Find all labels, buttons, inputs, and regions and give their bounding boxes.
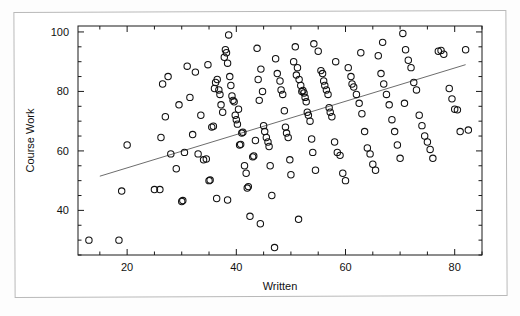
- data-point: [198, 112, 204, 118]
- data-point: [416, 112, 422, 118]
- data-point: [359, 111, 365, 117]
- data-point: [213, 195, 219, 201]
- y-tick-label-60: 60: [57, 145, 69, 157]
- data-point: [308, 136, 314, 142]
- data-point: [310, 149, 316, 155]
- data-point: [217, 91, 223, 97]
- data-point: [315, 48, 321, 54]
- data-point: [173, 166, 179, 172]
- data-point: [195, 151, 201, 157]
- data-point: [397, 155, 403, 161]
- data-point: [421, 133, 427, 139]
- data-point: [405, 57, 411, 63]
- data-point: [281, 108, 287, 114]
- data-point: [211, 85, 217, 91]
- data-point: [295, 216, 301, 222]
- data-point: [348, 73, 354, 79]
- y-tick-label-40: 40: [57, 204, 69, 216]
- data-point: [372, 167, 378, 173]
- data-point: [224, 60, 230, 66]
- data-point: [400, 30, 406, 36]
- data-point: [303, 99, 309, 105]
- data-point: [340, 170, 346, 176]
- data-point: [462, 47, 468, 53]
- data-point: [187, 94, 193, 100]
- data-point: [176, 102, 182, 108]
- data-point: [320, 78, 326, 84]
- data-point: [413, 87, 419, 93]
- data-point: [383, 91, 389, 97]
- data-point: [274, 70, 280, 76]
- data-point: [302, 94, 308, 100]
- data-point: [379, 39, 385, 45]
- data-point: [345, 64, 351, 70]
- data-point: [331, 139, 337, 145]
- x-tick-label-60: 60: [339, 261, 351, 273]
- data-point: [402, 47, 408, 53]
- data-point: [266, 143, 272, 149]
- data-point: [233, 116, 239, 122]
- x-tick-label-80: 80: [449, 261, 461, 273]
- data-point: [159, 81, 165, 87]
- data-point: [301, 90, 307, 96]
- data-point: [326, 105, 332, 111]
- data-point: [419, 122, 425, 128]
- data-point: [218, 102, 224, 108]
- x-axis-title: Written: [263, 280, 298, 292]
- data-point: [401, 100, 407, 106]
- data-point: [391, 128, 397, 134]
- data-point: [408, 64, 414, 70]
- data-point: [378, 70, 384, 76]
- data-point: [205, 61, 211, 67]
- y-tick-label-100: 100: [51, 26, 69, 38]
- data-point: [430, 155, 436, 161]
- data-point: [287, 157, 293, 163]
- data-point: [389, 116, 395, 122]
- data-point: [294, 64, 300, 70]
- data-point: [282, 124, 288, 130]
- data-point: [269, 192, 275, 198]
- data-point: [224, 197, 230, 203]
- data-point: [118, 188, 124, 194]
- data-point: [367, 151, 373, 157]
- data-point: [386, 102, 392, 108]
- data-point: [165, 73, 171, 79]
- data-point: [232, 112, 238, 118]
- data-point: [427, 146, 433, 152]
- data-point: [258, 66, 264, 72]
- data-point: [255, 76, 261, 82]
- data-point: [225, 32, 231, 38]
- data-point: [381, 81, 387, 87]
- data-point: [332, 58, 338, 64]
- data-point: [465, 127, 471, 133]
- data-point: [271, 244, 277, 250]
- data-point: [311, 41, 317, 47]
- y-tick-label-80: 80: [57, 85, 69, 97]
- plot-frame: [78, 26, 482, 255]
- data-point: [307, 118, 313, 124]
- data-point: [216, 87, 222, 93]
- data-point: [394, 142, 400, 148]
- data-point: [277, 78, 283, 84]
- data-point: [370, 161, 376, 167]
- data-point: [364, 145, 370, 151]
- data-point: [116, 237, 122, 243]
- x-tick-label-40: 40: [230, 261, 242, 273]
- data-point: [219, 109, 225, 115]
- x-tick-label-20: 20: [121, 261, 133, 273]
- data-point: [192, 69, 198, 75]
- data-point: [375, 53, 381, 59]
- scatter-plot-figure: 20406080406080100WrittenCourse Work: [0, 0, 520, 316]
- data-point: [288, 172, 294, 178]
- data-point: [257, 221, 263, 227]
- data-point: [235, 106, 241, 112]
- data-point: [254, 45, 260, 51]
- data-point: [256, 97, 262, 103]
- data-point: [272, 56, 278, 62]
- data-point: [241, 163, 247, 169]
- data-point: [449, 96, 455, 102]
- data-point: [259, 88, 265, 94]
- data-point: [353, 91, 359, 97]
- data-point: [158, 134, 164, 140]
- data-point: [86, 237, 92, 243]
